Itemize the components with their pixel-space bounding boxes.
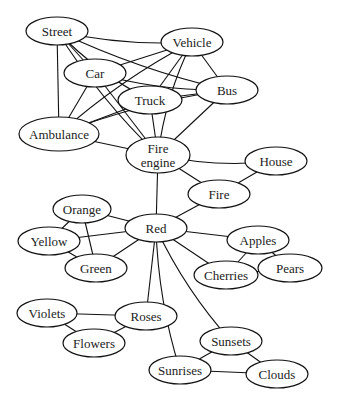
- node-house: House: [245, 147, 307, 175]
- node-vehicle: Vehicle: [161, 28, 223, 56]
- node-truck: Truck: [118, 86, 182, 114]
- node-label: Bus: [217, 83, 237, 98]
- node-car: Car: [64, 59, 126, 87]
- node-label: Car: [86, 66, 105, 81]
- node-red: Red: [125, 214, 187, 242]
- node-green: Green: [65, 254, 127, 282]
- node-label: Red: [146, 221, 167, 236]
- node-label: Ambulance: [29, 127, 89, 142]
- node-label: Roses: [130, 309, 161, 324]
- node-label: Clouds: [259, 367, 296, 382]
- node-label: Sunsets: [211, 334, 251, 349]
- edge-red-sunrises: [156, 228, 180, 370]
- node-pears: Pears: [258, 254, 322, 282]
- node-apples: Apples: [227, 226, 289, 254]
- node-label: Flowers: [73, 336, 115, 351]
- node-flowers: Flowers: [63, 329, 125, 357]
- node-label: Sunrises: [158, 363, 202, 378]
- node-orange: Orange: [53, 195, 111, 223]
- node-label: Apples: [240, 233, 277, 248]
- node-label: Pears: [276, 261, 304, 276]
- node-label: Yellow: [31, 234, 69, 249]
- node-ambulance: Ambulance: [19, 117, 99, 151]
- node-fire: Fire: [188, 180, 250, 208]
- node-label: Fire: [209, 187, 230, 202]
- node-label: Fire: [148, 141, 169, 156]
- node-fire_engine: Fireengine: [126, 137, 190, 173]
- node-label: Vehicle: [173, 35, 212, 50]
- node-sunrises: Sunrises: [149, 356, 211, 384]
- node-bus: Bus: [196, 76, 258, 104]
- node-label: Truck: [135, 93, 166, 108]
- node-label: Violets: [29, 306, 66, 321]
- node-clouds: Clouds: [246, 360, 308, 388]
- node-violets: Violets: [17, 299, 77, 327]
- node-roses: Roses: [115, 302, 177, 330]
- node-street: Street: [26, 17, 88, 45]
- node-cherries: Cherries: [194, 261, 258, 289]
- node-sunsets: Sunsets: [200, 327, 262, 355]
- node-yellow: Yellow: [18, 227, 80, 255]
- node-label: Cherries: [204, 268, 248, 283]
- node-label: House: [259, 154, 292, 169]
- node-label: Orange: [63, 202, 101, 217]
- node-label: Green: [80, 261, 112, 276]
- graph-svg: StreetVehicleCarBusTruckAmbulanceFireeng…: [0, 0, 344, 402]
- semantic-network-diagram: StreetVehicleCarBusTruckAmbulanceFireeng…: [0, 0, 344, 402]
- node-label: Street: [42, 24, 73, 39]
- node-label: engine: [141, 155, 176, 170]
